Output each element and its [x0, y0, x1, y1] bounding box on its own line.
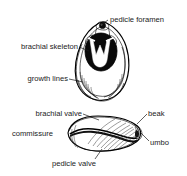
label-brachial-skeleton: brachial skeleton: [21, 42, 78, 51]
label-growth-lines: growth lines: [27, 74, 68, 83]
label-pedicle-foramen: pedicle foramen: [110, 15, 164, 24]
dorsal-view: [75, 22, 129, 102]
label-beak: beak: [148, 109, 165, 118]
brachiopod-anatomy-figure: pedicle foramen brachial skeleton growth…: [0, 0, 187, 176]
label-umbo: umbo: [150, 138, 169, 147]
pedicle-foramen-hole: [99, 22, 105, 28]
label-commissure: commissure: [12, 129, 53, 138]
leader-beak: [137, 114, 147, 124]
label-brachial-valve: brachial valve: [36, 109, 82, 118]
label-pedicle-valve: pedicle valve: [52, 159, 96, 168]
lateral-view: [68, 116, 142, 151]
